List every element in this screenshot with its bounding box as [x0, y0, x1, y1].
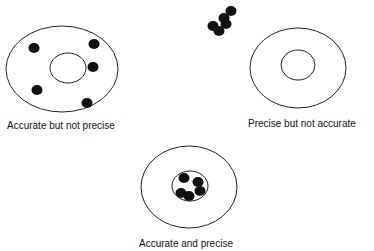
- shot-dot: [193, 177, 204, 187]
- outer-ring: [141, 146, 237, 228]
- shot-dot: [88, 62, 99, 72]
- shot-dot: [184, 191, 195, 201]
- inner-ring: [50, 53, 86, 83]
- label-accurate-and-precise: Accurate and precise: [139, 238, 233, 249]
- shot-dot: [29, 43, 40, 53]
- inner-ring: [281, 50, 315, 80]
- outer-ring: [250, 28, 346, 108]
- shot-dot: [214, 26, 225, 36]
- target-accurate-not-precise: [6, 26, 118, 112]
- target-precise-not-accurate: [208, 6, 347, 108]
- shot-dot: [195, 186, 206, 196]
- outer-ring: [6, 26, 118, 112]
- target-accurate-and-precise: [141, 146, 237, 228]
- shot-dot: [89, 39, 100, 49]
- shot-dot: [32, 85, 43, 95]
- shot-dot: [179, 173, 190, 183]
- shot-dot: [219, 13, 230, 23]
- shot-dot: [82, 98, 93, 108]
- label-precise-not-accurate: Precise but not accurate: [248, 118, 356, 129]
- label-accurate-not-precise: Accurate but not precise: [7, 120, 115, 131]
